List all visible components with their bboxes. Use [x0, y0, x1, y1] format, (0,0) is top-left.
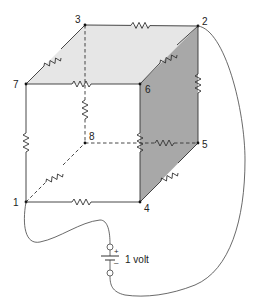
edge-7-1: [23, 84, 29, 202]
vertex-label-6: 6: [145, 84, 151, 95]
battery-minus-sign: –: [114, 258, 119, 267]
battery-terminal-top: [107, 244, 113, 250]
vertex-label-2: 2: [202, 16, 208, 27]
vertex-3: [84, 24, 87, 27]
resistor-cube-diagram: 1 2 3 4 5 6 7 8 + – 1 volt: [0, 0, 257, 305]
battery-plus-sign: +: [114, 247, 119, 256]
vertex-5: [197, 142, 200, 145]
battery-voltage-label: 1 volt: [125, 254, 149, 265]
vertex-7: [25, 83, 28, 86]
vertex-4: [139, 201, 142, 204]
vertex-label-5: 5: [202, 139, 208, 150]
vertex-label-3: 3: [75, 14, 81, 25]
battery-terminal-bottom: [107, 270, 113, 276]
vertex-6: [139, 83, 142, 86]
vertex-label-1: 1: [13, 197, 19, 208]
wire-from-vertex-1: [24, 202, 110, 244]
battery: + – 1 volt: [101, 244, 149, 276]
vertex-label-8: 8: [89, 131, 95, 142]
edge-1-4: [26, 199, 140, 205]
vertex-8: [84, 142, 87, 145]
vertex-label-7: 7: [13, 79, 19, 90]
vertex-label-4: 4: [144, 203, 150, 214]
edge-1-8: [26, 143, 85, 202]
